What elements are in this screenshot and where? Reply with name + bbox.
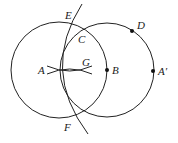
label-b: B: [112, 64, 119, 76]
label-f: F: [63, 121, 71, 133]
point-b: [105, 68, 109, 72]
geometry-diagram: A B C D E F G A′: [0, 0, 178, 143]
label-g: G: [82, 56, 90, 68]
label-c: C: [78, 33, 86, 45]
point-d: [130, 29, 134, 33]
label-a: A: [37, 64, 45, 76]
label-d: D: [136, 19, 145, 31]
label-e: E: [64, 9, 72, 21]
label-a-prime: A′: [157, 65, 168, 77]
point-a-prime: [151, 69, 155, 73]
